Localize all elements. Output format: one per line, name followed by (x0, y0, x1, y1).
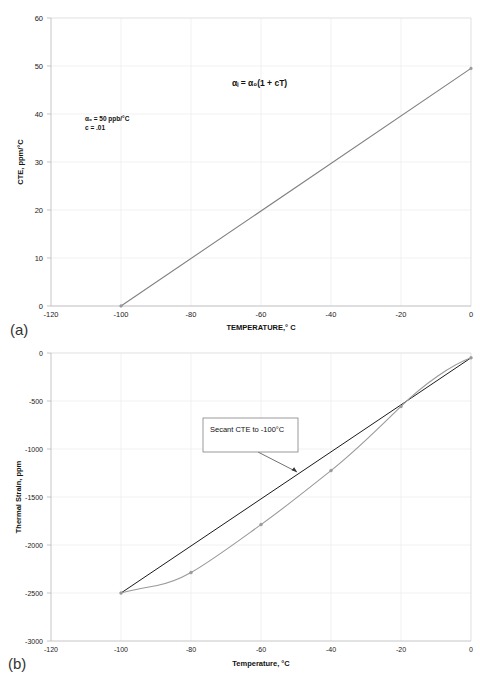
panel-label-b: (b) (8, 655, 26, 672)
y-tick-label: 0 (39, 350, 43, 357)
x-tick-label: -100 (113, 310, 128, 319)
y-tick-label: 10 (35, 254, 43, 263)
panel-label-a: (a) (10, 321, 28, 338)
y-tick-label: -500 (29, 398, 43, 405)
x-tick-label: -60 (256, 310, 267, 319)
x-tick-label: -60 (256, 646, 266, 653)
x-tick-label: -120 (43, 310, 58, 319)
data-point-marker (330, 469, 333, 472)
x-tick-label: 0 (469, 646, 473, 653)
y-tick-label: -2000 (25, 542, 43, 549)
annotation-c: c = .01 (85, 124, 105, 131)
x-tick-label: -20 (396, 310, 407, 319)
y-tick-label: -2500 (25, 590, 43, 597)
x-tick-label: -100 (114, 646, 128, 653)
y-axis-title-a: CTE, ppm/°C (16, 139, 25, 185)
callout-label: Secant CTE to -100°C (210, 425, 285, 434)
y-ticks-b (47, 353, 51, 641)
chart-cte-vs-temperature: 0 10 20 30 40 50 60 -120 -100 -80 -60 -4… (0, 0, 480, 341)
y-tick-label: 50 (35, 62, 43, 71)
data-point-marker (120, 305, 123, 308)
x-tick-label: -40 (326, 310, 337, 319)
y-tick-label: 0 (39, 302, 43, 311)
x-tick-label: -80 (186, 310, 197, 319)
figure-panel-b: 0 -500 -1000 -1500 -2000 -2500 -3000 -12… (0, 341, 480, 682)
y-tick-label: -3000 (25, 638, 43, 645)
figure-panel-a: 0 10 20 30 40 50 60 -120 -100 -80 -60 -4… (0, 0, 480, 341)
data-point-marker (260, 523, 263, 526)
data-point-marker (470, 67, 473, 70)
y-ticks-a (47, 18, 51, 306)
data-point-marker (470, 356, 473, 359)
y-tick-label: 30 (35, 158, 43, 167)
data-point-marker (190, 571, 193, 574)
data-point-marker (120, 592, 123, 595)
chart-thermal-strain-vs-temperature: 0 -500 -1000 -1500 -2000 -2500 -3000 -12… (0, 341, 480, 682)
y-axis-title-b: Thermal Strain, ppm (14, 460, 23, 533)
y-tick-label: 60 (35, 14, 43, 23)
x-tick-label: 0 (469, 310, 473, 319)
callout-box (203, 418, 298, 452)
x-tick-label: -20 (396, 646, 406, 653)
x-tick-label: -120 (44, 646, 58, 653)
annotation-equation: αᵢ = α₀(1 + cT) (232, 78, 287, 88)
y-tick-label: -1500 (25, 494, 43, 501)
x-tick-label: -80 (186, 646, 196, 653)
x-tick-label: -40 (326, 646, 336, 653)
y-tick-label: -1000 (25, 446, 43, 453)
data-point-marker (400, 405, 403, 408)
y-tick-label: 40 (35, 110, 43, 119)
y-tick-label: 20 (35, 206, 43, 215)
x-axis-title-a: TEMPERATURE,° C (226, 323, 296, 332)
annotation-alpha0: α₀ = 50 ppb/°C (85, 115, 130, 123)
x-axis-title-b: Temperature, °C (232, 659, 290, 668)
